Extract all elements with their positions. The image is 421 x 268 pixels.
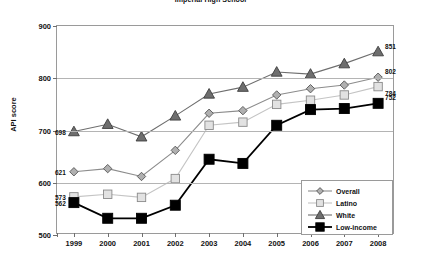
data-point (306, 105, 316, 115)
data-point (373, 98, 383, 108)
data-point (171, 174, 179, 182)
data-point (238, 158, 248, 168)
y-gridline (57, 78, 393, 79)
legend-label: Low-income (336, 224, 377, 231)
data-point (70, 168, 78, 176)
legend-label: Latino (336, 200, 357, 207)
data-point (271, 67, 282, 77)
data-point (239, 106, 247, 114)
series-overall (70, 73, 383, 181)
data-point (273, 100, 281, 108)
data-point (239, 118, 247, 126)
data-label-end: 851 (385, 43, 396, 50)
y-tick-label: 700 (38, 126, 51, 135)
data-label-start: 698 (55, 129, 66, 136)
legend-marker-icon (307, 185, 333, 197)
data-point (205, 121, 213, 129)
data-point (103, 213, 113, 223)
x-tick-label: 2001 (133, 239, 150, 248)
x-tick-mark (74, 233, 75, 237)
y-axis-title: API score (9, 85, 18, 145)
legend-item-low-income[interactable]: Low-income (307, 221, 388, 233)
data-point (373, 46, 384, 56)
y-tick-mark (53, 26, 57, 27)
chart-root: Imperial High School API score 500600700… (0, 0, 421, 268)
legend-marker-icon (307, 197, 333, 209)
x-tick-mark (175, 233, 176, 237)
x-tick-mark (108, 233, 109, 237)
data-point (104, 164, 112, 172)
data-point (170, 110, 181, 120)
data-point (102, 119, 113, 129)
x-tick-label: 2008 (370, 239, 387, 248)
x-tick-label: 2007 (336, 239, 353, 248)
legend-item-white[interactable]: White (307, 209, 388, 221)
y-tick-mark (53, 183, 57, 184)
x-tick-label: 2005 (268, 239, 285, 248)
data-point (238, 82, 249, 92)
data-point (374, 73, 382, 81)
y-tick-label: 500 (38, 231, 51, 240)
y-tick-label: 800 (38, 74, 51, 83)
data-point (137, 193, 145, 201)
data-point (272, 120, 282, 130)
legend-marker-icon (307, 221, 333, 233)
data-point (374, 82, 382, 90)
x-tick-label: 2002 (167, 239, 184, 248)
x-tick-label: 2004 (235, 239, 252, 248)
legend-item-overall[interactable]: Overall (307, 185, 388, 197)
x-tick-mark (142, 233, 143, 237)
x-tick-label: 1999 (66, 239, 83, 248)
x-tick-mark (277, 233, 278, 237)
y-tick-label: 900 (38, 22, 51, 31)
chart-legend: OverallLatinoWhiteLow-income (301, 180, 393, 235)
data-point (204, 154, 214, 164)
data-label-start: 562 (55, 200, 66, 207)
y-tick-mark (53, 78, 57, 79)
data-label-start: 621 (55, 169, 66, 176)
x-tick-mark (57, 233, 58, 237)
x-tick-label: 2003 (201, 239, 218, 248)
data-point (340, 81, 348, 89)
data-point (306, 85, 314, 93)
data-point (273, 91, 281, 99)
data-point (339, 58, 350, 68)
data-label-end: 802 (385, 68, 396, 75)
data-point (104, 190, 112, 198)
y-gridline (57, 131, 393, 132)
legend-item-latino[interactable]: Latino (307, 197, 388, 209)
data-point (340, 91, 348, 99)
x-tick-mark (209, 233, 210, 237)
x-tick-label: 2006 (302, 239, 319, 248)
legend-label: White (336, 212, 355, 219)
legend-marker-icon (307, 209, 333, 221)
y-tick-label: 600 (38, 178, 51, 187)
x-tick-label: 2000 (99, 239, 116, 248)
data-point (136, 131, 147, 141)
x-tick-mark (243, 233, 244, 237)
data-point (306, 96, 314, 104)
chart-title: Imperial High School (0, 0, 421, 3)
data-point (137, 213, 147, 223)
data-point (69, 198, 79, 208)
legend-label: Overall (336, 188, 360, 195)
data-label-end: 752 (385, 94, 396, 101)
series-white (69, 46, 384, 141)
data-point (170, 200, 180, 210)
data-point (339, 104, 349, 114)
